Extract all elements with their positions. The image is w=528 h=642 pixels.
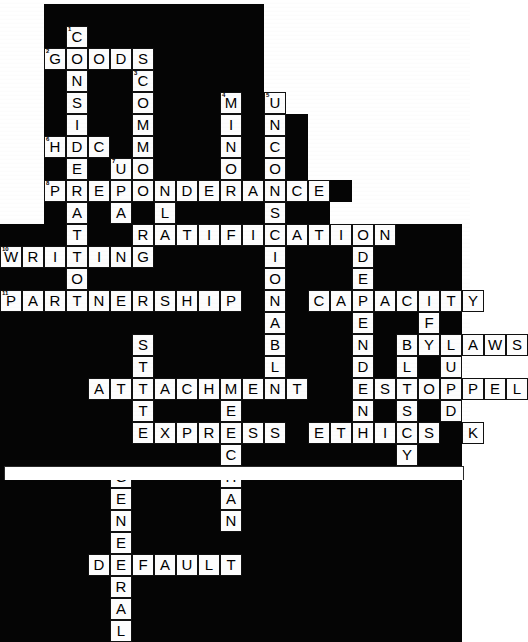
grid-letter-cell[interactable]: P <box>110 180 132 202</box>
grid-letter-cell[interactable]: 6H <box>44 136 66 158</box>
grid-letter-cell[interactable]: O <box>88 48 110 70</box>
grid-letter-cell[interactable]: A <box>242 180 264 202</box>
grid-letter-cell[interactable]: O <box>418 378 440 400</box>
grid-letter-cell[interactable]: 8P <box>44 180 66 202</box>
grid-letter-cell[interactable]: G <box>132 246 154 268</box>
grid-letter-cell[interactable]: N <box>154 180 176 202</box>
grid-letter-cell[interactable]: A <box>286 224 308 246</box>
grid-letter-cell[interactable]: E <box>66 158 88 180</box>
grid-letter-cell[interactable]: A <box>220 488 242 510</box>
grid-letter-cell[interactable]: D <box>352 246 374 268</box>
grid-letter-cell[interactable]: D <box>88 554 110 576</box>
grid-letter-cell[interactable]: E <box>242 378 264 400</box>
grid-letter-cell[interactable]: E <box>220 400 242 422</box>
grid-letter-cell[interactable]: O <box>352 224 374 246</box>
grid-letter-cell[interactable]: E <box>220 422 242 444</box>
grid-letter-cell[interactable]: N <box>264 180 286 202</box>
grid-letter-cell[interactable]: H <box>198 378 220 400</box>
grid-letter-cell[interactable]: F <box>418 312 440 334</box>
grid-letter-cell[interactable]: 11P <box>0 290 22 312</box>
grid-letter-cell[interactable]: R <box>44 290 66 312</box>
grid-letter-cell[interactable]: L <box>440 334 462 356</box>
grid-letter-cell[interactable]: C <box>264 224 286 246</box>
grid-letter-cell[interactable]: S <box>66 92 88 114</box>
grid-letter-cell[interactable]: T <box>440 290 462 312</box>
grid-letter-cell[interactable]: I <box>374 422 396 444</box>
grid-letter-cell[interactable]: A <box>110 202 132 224</box>
grid-letter-cell[interactable]: S <box>374 378 396 400</box>
grid-letter-cell[interactable]: E <box>110 488 132 510</box>
grid-letter-cell[interactable]: S <box>396 400 418 422</box>
grid-letter-cell[interactable]: T <box>66 246 88 268</box>
grid-letter-cell[interactable]: S <box>506 334 528 356</box>
grid-letter-cell[interactable]: A <box>154 554 176 576</box>
grid-letter-cell[interactable]: S <box>418 422 440 444</box>
grid-letter-cell[interactable]: E <box>352 268 374 290</box>
grid-letter-cell[interactable]: P <box>176 422 198 444</box>
grid-letter-cell[interactable]: R <box>66 180 88 202</box>
grid-letter-cell[interactable]: M <box>220 378 242 400</box>
grid-letter-cell[interactable]: T <box>220 554 242 576</box>
grid-letter-cell[interactable]: C <box>88 136 110 158</box>
grid-letter-cell[interactable]: O <box>132 180 154 202</box>
grid-letter-cell[interactable]: R <box>198 422 220 444</box>
grid-letter-cell[interactable]: T <box>308 224 330 246</box>
grid-letter-cell[interactable]: R <box>22 246 44 268</box>
grid-letter-cell[interactable]: A <box>462 334 484 356</box>
grid-letter-cell[interactable]: S <box>132 334 154 356</box>
grid-letter-cell[interactable]: L <box>110 620 132 642</box>
grid-letter-cell[interactable]: S <box>132 48 154 70</box>
grid-letter-cell[interactable]: M <box>132 114 154 136</box>
grid-letter-cell[interactable]: A <box>66 202 88 224</box>
grid-letter-cell[interactable]: 4M <box>220 92 242 114</box>
grid-letter-cell[interactable]: L <box>154 202 176 224</box>
grid-letter-cell[interactable]: Y <box>396 444 418 466</box>
grid-letter-cell[interactable]: T <box>286 378 308 400</box>
grid-letter-cell[interactable]: E <box>110 532 132 554</box>
grid-letter-cell[interactable]: S <box>264 422 286 444</box>
grid-letter-cell[interactable]: A <box>22 290 44 312</box>
grid-letter-cell[interactable]: S <box>154 290 176 312</box>
grid-letter-cell[interactable]: P <box>440 378 462 400</box>
grid-letter-cell[interactable]: O <box>264 158 286 180</box>
grid-letter-cell[interactable]: E <box>132 422 154 444</box>
grid-letter-cell[interactable]: C <box>264 136 286 158</box>
grid-letter-cell[interactable]: I <box>220 114 242 136</box>
grid-letter-cell[interactable]: T <box>176 224 198 246</box>
grid-letter-cell[interactable]: A <box>374 290 396 312</box>
grid-letter-cell[interactable]: O <box>132 158 154 180</box>
crossword-grid[interactable]: 1C2GOODSN3CSO4M5UIMIN6HDCMNCE7UOOO8PREPO… <box>0 0 462 440</box>
grid-letter-cell[interactable]: T <box>132 378 154 400</box>
grid-letter-cell[interactable]: D <box>66 136 88 158</box>
grid-letter-cell[interactable]: U <box>440 356 462 378</box>
grid-letter-cell[interactable]: E <box>352 312 374 334</box>
grid-letter-cell[interactable]: N <box>374 224 396 246</box>
grid-letter-cell[interactable]: I <box>198 290 220 312</box>
grid-letter-cell[interactable]: H <box>352 422 374 444</box>
grid-letter-cell[interactable]: R <box>110 576 132 598</box>
grid-letter-cell[interactable]: M <box>132 136 154 158</box>
grid-letter-cell[interactable]: X <box>154 422 176 444</box>
grid-letter-cell[interactable]: D <box>176 180 198 202</box>
grid-letter-cell[interactable]: Y <box>462 290 484 312</box>
grid-letter-cell[interactable]: D <box>440 400 462 422</box>
grid-letter-cell[interactable]: D <box>110 48 132 70</box>
grid-letter-cell[interactable]: R <box>132 224 154 246</box>
grid-letter-cell[interactable]: F <box>132 554 154 576</box>
grid-letter-cell[interactable]: E <box>484 378 506 400</box>
grid-letter-cell[interactable]: F <box>220 224 242 246</box>
grid-letter-cell[interactable]: T <box>66 290 88 312</box>
grid-letter-cell[interactable]: L <box>506 378 528 400</box>
grid-letter-cell[interactable]: E <box>198 180 220 202</box>
grid-letter-cell[interactable]: A <box>154 378 176 400</box>
grid-letter-cell[interactable]: H <box>176 290 198 312</box>
grid-letter-cell[interactable]: R <box>220 180 242 202</box>
grid-letter-cell[interactable]: U <box>176 554 198 576</box>
grid-letter-cell[interactable]: I <box>242 224 264 246</box>
grid-letter-cell[interactable]: N <box>264 290 286 312</box>
grid-letter-cell[interactable]: N <box>264 114 286 136</box>
grid-letter-cell[interactable]: A <box>264 312 286 334</box>
grid-letter-cell[interactable]: C <box>286 180 308 202</box>
grid-letter-cell[interactable]: T <box>132 400 154 422</box>
grid-letter-cell[interactable]: N <box>352 400 374 422</box>
